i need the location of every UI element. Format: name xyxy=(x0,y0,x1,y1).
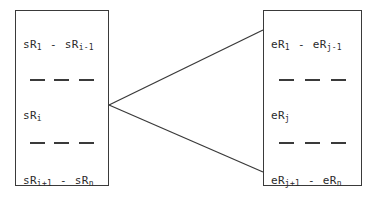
right-bottom-sub-right: n xyxy=(337,179,342,188)
left-mid-sub-left: i xyxy=(37,114,42,123)
left-segment-middle-label: sRi xyxy=(16,109,42,122)
ellipsis-dash-icon xyxy=(279,142,294,144)
right-top-base-left: eR xyxy=(271,38,285,51)
right-top-sub-left: 1 xyxy=(285,43,290,52)
right-bottom-base-right: eR xyxy=(323,174,337,187)
left-segment-top-label: sR1-sRi-1 xyxy=(16,38,94,51)
ellipsis-dash-icon xyxy=(305,142,320,144)
diagram-canvas: sR1-sRi-1 sRi sRi+1-sRn eR xyxy=(0,0,376,198)
left-bottom-base-right: sR xyxy=(75,174,89,187)
lower-connector-line xyxy=(109,105,263,172)
ellipsis-dash-icon xyxy=(79,79,94,81)
left-top-sub-right: i-1 xyxy=(79,43,94,52)
right-bottom-separator: - xyxy=(308,174,315,187)
right-top-separator: - xyxy=(298,38,305,51)
right-top-base-right: eR xyxy=(313,38,327,51)
left-bottom-separator: - xyxy=(60,174,67,187)
upper-connector-line xyxy=(109,30,263,105)
right-segment-middle-label: eRj xyxy=(264,109,290,122)
left-bottom-sub-left: i+1 xyxy=(37,179,52,188)
left-segment-middle: sRi xyxy=(16,95,108,135)
left-bottom-base-left: sR xyxy=(23,174,37,187)
left-top-sub-left: 1 xyxy=(37,43,42,52)
right-segment-top-label: eR1-eRj-1 xyxy=(264,38,342,51)
right-segment-middle: eRj xyxy=(264,95,361,135)
left-top-base-right: sR xyxy=(65,38,79,51)
left-top-base-left: sR xyxy=(23,38,37,51)
right-bottom-base-left: eR xyxy=(271,174,285,187)
ellipsis-dash-icon xyxy=(305,79,320,81)
ellipsis-dash-icon xyxy=(279,79,294,81)
left-segment-bottom: sRi+1-sRn xyxy=(16,161,108,198)
left-segment-top: sR1-sRi-1 xyxy=(16,21,108,67)
ellipsis-dash-icon xyxy=(30,79,45,81)
left-bottom-sub-right: n xyxy=(89,179,94,188)
right-ellipsis-row-2 xyxy=(264,137,361,149)
ellipsis-dash-icon xyxy=(331,142,346,144)
right-segment-bottom: eRj+1-eRn xyxy=(264,161,361,198)
left-top-separator: - xyxy=(50,38,57,51)
right-bottom-sub-left: j+1 xyxy=(285,179,300,188)
ellipsis-dash-icon xyxy=(30,142,45,144)
source-rules-box: sR1-sRi-1 sRi sRi+1-sRn xyxy=(15,10,109,186)
left-ellipsis-row-1 xyxy=(16,74,108,86)
right-mid-sub-left: j xyxy=(285,114,290,123)
left-mid-base-left: sR xyxy=(23,109,37,122)
right-mid-base-left: eR xyxy=(271,109,285,122)
ellipsis-dash-icon xyxy=(54,79,69,81)
right-top-sub-right: j-1 xyxy=(327,43,342,52)
expanded-rules-box: eR1-eRj-1 eRj eRj+1-eRn xyxy=(263,10,362,186)
right-ellipsis-row-1 xyxy=(264,74,361,86)
left-ellipsis-row-2 xyxy=(16,137,108,149)
ellipsis-dash-icon xyxy=(79,142,94,144)
ellipsis-dash-icon xyxy=(54,142,69,144)
left-segment-bottom-label: sRi+1-sRn xyxy=(16,174,94,187)
right-segment-top: eR1-eRj-1 xyxy=(264,21,361,67)
right-segment-bottom-label: eRj+1-eRn xyxy=(264,174,342,187)
ellipsis-dash-icon xyxy=(331,79,346,81)
